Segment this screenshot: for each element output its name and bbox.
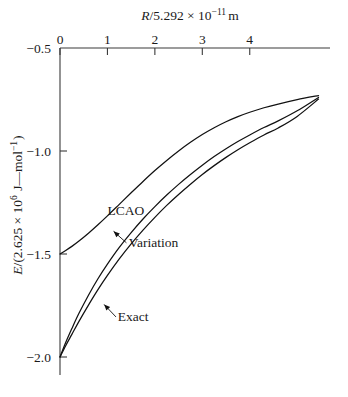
x-axis-tick-labels: 01234	[57, 32, 254, 47]
x-axis-title-unit: m	[228, 8, 239, 23]
curve-label-exact: Exact	[118, 309, 149, 324]
y-axis-title-exponent-six: 6	[9, 195, 19, 200]
y-axis-title-mid: /(2.625 × 10	[10, 200, 25, 267]
energy-vs-internuclear-distance-chart: R/5.292 × 10−11m E/(2.625 × 106 J—mol−1)…	[0, 0, 348, 397]
y-tick-label: −1.5	[27, 247, 52, 262]
curve-variation	[60, 97, 319, 357]
x-axis-title-mid: /5.292 × 10	[150, 8, 212, 23]
x-tick-label: 4	[246, 32, 253, 47]
x-tick-label: 1	[104, 32, 111, 47]
curve-label-lcao: LCAO	[107, 203, 144, 218]
y-tick-label: −1.0	[27, 144, 52, 159]
y-axis-title-close: )	[10, 135, 25, 140]
y-axis-title-exponent-minus-one: −1	[9, 141, 19, 151]
y-axis-title-mid2: J—mol	[10, 151, 25, 194]
curve-exact	[60, 99, 319, 357]
curve-labels: LCAOVariationExact	[107, 203, 178, 324]
x-tick-label: 2	[151, 32, 158, 47]
curve-label-variation: Variation	[129, 235, 179, 250]
annotation-leaders	[104, 231, 126, 317]
curve-group	[60, 96, 319, 357]
y-axis-title: E/(2.625 × 106 J—mol−1)	[9, 135, 25, 275]
x-axis-ticks	[60, 48, 250, 55]
y-tick-label: −2.0	[27, 350, 52, 365]
x-axis-title: R/5.292 × 10−11m	[140, 7, 239, 23]
y-tick-label: −0.5	[27, 41, 52, 56]
x-axis-title-exponent: −11	[212, 7, 227, 17]
x-tick-label: 3	[199, 32, 206, 47]
y-axis-tick-labels: −0.5−1.0−1.5−2.0	[27, 41, 52, 365]
x-tick-label: 0	[57, 32, 64, 47]
